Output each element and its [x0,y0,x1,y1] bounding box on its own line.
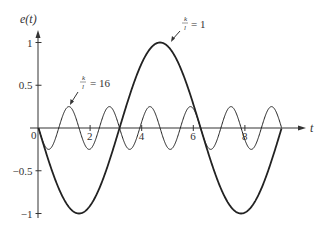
svg-text:l: l [82,83,84,91]
x-tick-label: 4 [139,130,145,142]
x-tick-label: 6 [190,130,196,142]
y-tick-label: −1 [21,208,33,220]
x-axis-arrow-icon [298,126,306,131]
svg-text:k: k [82,74,86,82]
annotation-k16: k l = 16 [70,74,110,105]
svg-text:= 16: = 16 [90,77,110,89]
svg-text:l: l [184,24,186,32]
svg-text:k: k [184,15,188,23]
y-axis-arrow-icon [36,30,41,38]
chart: 246810.5−0.5−1 e(t) t 0 k l = 16 k l = 1 [0,0,322,234]
svg-text:= 1: = 1 [191,18,205,30]
y-tick-label: 1 [27,37,33,49]
y-axis-label: e(t) [20,12,37,26]
annotation-k1: k l = 1 [171,15,205,42]
x-tick-label: 2 [87,130,93,142]
y-tick-label: −0.5 [13,165,33,177]
x-axis-label: t [310,121,314,135]
y-tick-label: 0.5 [19,79,33,91]
origin-label: 0 [31,129,37,141]
